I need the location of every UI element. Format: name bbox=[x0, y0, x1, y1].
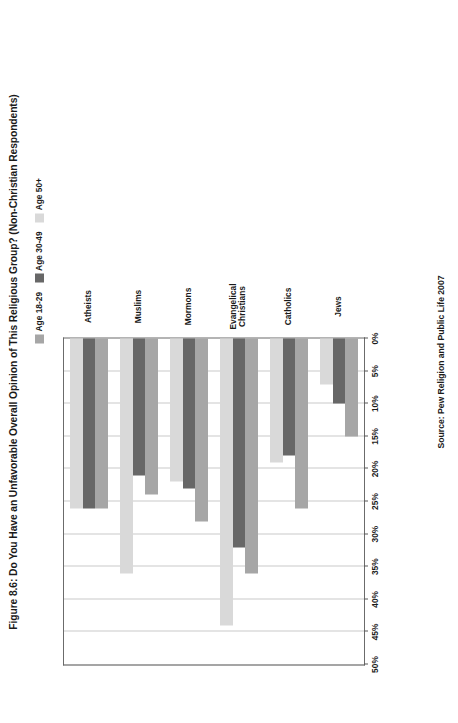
bar-group bbox=[114, 338, 164, 664]
axis-tick-label: 0% bbox=[370, 332, 380, 344]
bar bbox=[145, 338, 157, 494]
bar bbox=[320, 338, 332, 384]
axis-tick bbox=[364, 370, 368, 371]
bar bbox=[270, 338, 282, 462]
bar bbox=[170, 338, 182, 481]
legend-swatch-icon bbox=[35, 213, 44, 222]
axis-tick bbox=[364, 663, 368, 664]
bar bbox=[295, 338, 307, 508]
axis-tick bbox=[364, 533, 368, 534]
bar bbox=[333, 338, 345, 403]
legend-entry: Age 30-49 bbox=[34, 231, 44, 283]
axis-tick bbox=[364, 467, 368, 468]
axis-tick bbox=[364, 500, 368, 501]
bar bbox=[133, 338, 145, 475]
category-label: Mormons bbox=[184, 287, 193, 325]
legend-label: Age 18-29 bbox=[34, 291, 44, 331]
axis-tick bbox=[364, 337, 368, 338]
category-label: Evangelical Christians bbox=[229, 283, 248, 329]
axis-tick-label: 35% bbox=[370, 558, 380, 575]
legend-swatch-icon bbox=[35, 334, 44, 343]
bar bbox=[283, 338, 295, 455]
legend-entry: Age 50+ bbox=[34, 177, 44, 221]
axis-tick bbox=[364, 565, 368, 566]
bar bbox=[233, 338, 245, 547]
axis-tick-label: 15% bbox=[370, 427, 380, 444]
bar bbox=[220, 338, 232, 625]
bar-group bbox=[314, 338, 364, 664]
axis-tick-label: 45% bbox=[370, 623, 380, 640]
bar-group bbox=[64, 338, 114, 664]
axis-tick bbox=[364, 402, 368, 403]
axis-tick bbox=[364, 435, 368, 436]
bar-group bbox=[214, 338, 264, 664]
figure-title: Figure 8.6: Do You Have an Unfavorable O… bbox=[8, 0, 19, 723]
legend-label: Age 30-49 bbox=[34, 231, 44, 271]
bar bbox=[183, 338, 195, 488]
bar-group bbox=[164, 338, 214, 664]
axis-tick-label: 20% bbox=[370, 460, 380, 477]
plot-area: 50%45%40%35%30%25%20%15%10%5%0%JewsCatho… bbox=[63, 337, 365, 665]
axis-tick-label: 10% bbox=[370, 395, 380, 412]
bar bbox=[95, 338, 107, 508]
category-label: Atheists bbox=[84, 289, 93, 322]
category-label: Jews bbox=[334, 296, 343, 317]
axis-tick bbox=[364, 598, 368, 599]
bar bbox=[345, 338, 357, 436]
bar-group bbox=[264, 338, 314, 664]
bar bbox=[83, 338, 95, 508]
axis-tick-label: 5% bbox=[370, 365, 380, 377]
bar bbox=[120, 338, 132, 573]
category-label: Catholics bbox=[284, 287, 293, 325]
bar bbox=[70, 338, 82, 508]
axis-tick-label: 25% bbox=[370, 493, 380, 510]
chart-legend: Age 18-29Age 30-49Age 50+ bbox=[34, 177, 44, 343]
legend-swatch-icon bbox=[35, 273, 44, 282]
category-label: Muslims bbox=[134, 289, 143, 323]
legend-label: Age 50+ bbox=[34, 177, 44, 209]
bar bbox=[195, 338, 207, 521]
legend-entry: Age 18-29 bbox=[34, 291, 44, 343]
axis-tick-label: 30% bbox=[370, 525, 380, 542]
bar bbox=[245, 338, 257, 573]
axis-tick-label: 40% bbox=[370, 590, 380, 607]
axis-tick bbox=[364, 630, 368, 631]
figure-canvas: Figure 8.6: Do You Have an Unfavorable O… bbox=[0, 0, 458, 723]
figure-source: Source: Pew Religion and Public Life 200… bbox=[436, 0, 446, 723]
axis-tick-label: 50% bbox=[370, 656, 380, 673]
